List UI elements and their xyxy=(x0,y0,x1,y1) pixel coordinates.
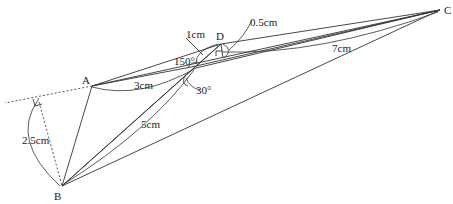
label-1cm: 1cm xyxy=(186,28,205,40)
label-3cm: 3cm xyxy=(134,79,153,91)
segment-AB xyxy=(62,86,92,186)
segment-BC xyxy=(62,10,440,186)
label-2-5cm: 2.5cm xyxy=(22,134,50,146)
extension-line-A xyxy=(5,86,92,103)
label-0-5cm: 0.5cm xyxy=(250,16,278,28)
label-angle-30: 30° xyxy=(196,84,211,96)
label-B: B xyxy=(54,190,61,202)
label-D: D xyxy=(216,30,224,42)
geometry-diagram: A B C D 1cm 0.5cm 7cm 3cm 5cm 2.5cm 150°… xyxy=(0,0,453,204)
label-5cm: 5cm xyxy=(141,118,160,130)
label-C: C xyxy=(444,4,451,16)
label-angle-150: 150° xyxy=(174,55,195,67)
label-A: A xyxy=(82,74,90,86)
label-7cm: 7cm xyxy=(332,42,351,54)
right-angle-mark-D xyxy=(216,51,222,56)
leader-0-5cm xyxy=(229,20,252,50)
segment-O-C-lower xyxy=(196,10,440,68)
